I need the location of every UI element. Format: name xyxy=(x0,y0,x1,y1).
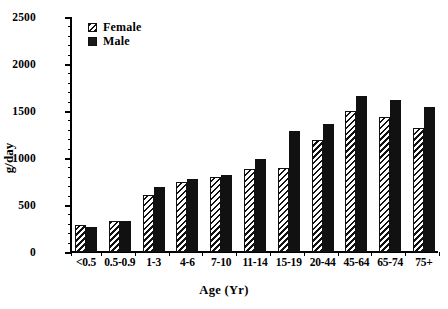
bar-male xyxy=(187,179,198,252)
bar-male xyxy=(424,107,435,252)
x-axis-category-labels: <0.50.5-0.91-34-67-1011-1415-1920-4445-6… xyxy=(70,256,438,272)
x-tick xyxy=(439,252,440,256)
x-category-label: 20-44 xyxy=(310,256,336,268)
bar-group xyxy=(278,131,300,252)
bar-female xyxy=(278,168,289,252)
x-axis-title: Age (Yr) xyxy=(0,283,448,298)
y-tick-label: 2000 xyxy=(12,58,36,70)
bar-male xyxy=(154,187,165,252)
bar-female xyxy=(109,221,120,252)
bar-female xyxy=(143,195,154,252)
bar-group xyxy=(379,100,401,252)
x-category-label: <0.5 xyxy=(76,256,96,268)
x-category-label: 75+ xyxy=(415,256,432,268)
bar-group xyxy=(413,107,435,252)
bar-female xyxy=(244,169,255,252)
bar-group xyxy=(244,159,266,252)
bar-group xyxy=(75,225,97,252)
y-axis-tick-labels: 05001000150020002500 xyxy=(0,17,56,253)
y-tick-label: 500 xyxy=(18,199,36,211)
bar-group xyxy=(109,221,131,252)
bar-male xyxy=(390,100,401,252)
bar-male xyxy=(323,124,334,252)
y-tick-label: 2500 xyxy=(12,11,36,23)
bar-groups xyxy=(70,17,438,252)
bar-female xyxy=(379,117,390,252)
bar-female xyxy=(413,128,424,252)
y-tick-label: 1500 xyxy=(12,105,36,117)
bar-group xyxy=(312,124,334,252)
bar-female xyxy=(210,177,221,252)
bar-female xyxy=(176,182,187,252)
bar-chart: Female Male 05001000150020002500 g/day <… xyxy=(0,0,448,309)
x-category-label: 65-74 xyxy=(377,256,403,268)
bar-group xyxy=(210,175,232,252)
y-axis-title: g/day xyxy=(1,143,17,173)
bar-male xyxy=(221,175,232,252)
x-category-label: 45-64 xyxy=(343,256,369,268)
x-category-label: 11-14 xyxy=(242,256,267,268)
x-category-label: 7-10 xyxy=(211,256,231,268)
bar-group xyxy=(143,187,165,252)
bar-female xyxy=(312,140,323,252)
x-category-label: 1-3 xyxy=(146,256,161,268)
bar-male xyxy=(289,131,300,252)
bar-male xyxy=(356,96,367,252)
x-category-label: 4-6 xyxy=(180,256,195,268)
y-tick-label: 0 xyxy=(30,246,36,258)
bar-female xyxy=(345,111,356,252)
bar-male xyxy=(86,227,97,252)
bar-group xyxy=(176,179,198,252)
x-category-label: 0.5-0.9 xyxy=(104,256,135,268)
bar-male xyxy=(255,159,266,252)
bar-group xyxy=(345,96,367,252)
bar-male xyxy=(120,221,131,252)
x-category-label: 15-19 xyxy=(276,256,302,268)
bar-female xyxy=(75,225,86,252)
